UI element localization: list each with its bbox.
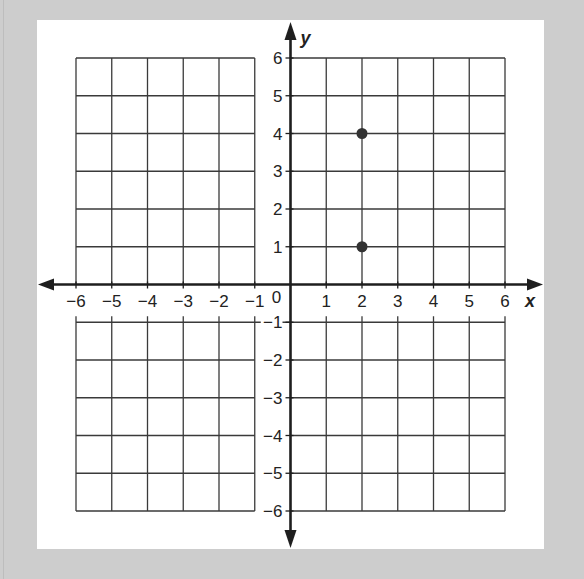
x-tick-label: −4 (138, 292, 157, 311)
axes (38, 22, 543, 548)
x-tick-label: −2 (209, 292, 228, 311)
y-tick-label: 1 (273, 238, 282, 257)
y-tick-label: −4 (263, 427, 282, 446)
x-tick-label: 6 (500, 292, 509, 311)
x-tick-label: −1 (245, 292, 264, 311)
y-tick-label: −6 (263, 502, 282, 521)
origin-label: 0 (272, 288, 281, 307)
x-axis-left-arrow-icon (38, 279, 54, 291)
y-tick-label: −3 (263, 389, 282, 408)
y-tick-label: 3 (273, 162, 282, 181)
data-point (357, 128, 368, 139)
y-tick-label: 4 (273, 125, 282, 144)
x-tick-label: 4 (429, 292, 438, 311)
x-tick-label: −5 (102, 292, 121, 311)
y-axis-down-arrow-icon (285, 530, 297, 548)
y-tick-label: −2 (263, 351, 282, 370)
x-axis-label: x (524, 291, 536, 311)
data-point (357, 241, 368, 252)
x-axis-right-arrow-icon (527, 279, 543, 291)
x-tick-label: 3 (393, 292, 402, 311)
y-tick-label: 5 (273, 87, 282, 106)
y-tick-label: −5 (263, 464, 282, 483)
y-axis-up-arrow-icon (285, 22, 297, 40)
y-tick-label: 6 (273, 49, 282, 68)
x-tick-label: 1 (322, 292, 331, 311)
x-tick-label: 2 (357, 292, 366, 311)
x-tick-label: −6 (66, 292, 85, 311)
x-tick-label: 5 (465, 292, 474, 311)
tick-labels: −6−5−4−3−2−1123456654321−1−2−3−4−5−60xy (66, 28, 536, 521)
y-tick-label: −1 (263, 313, 282, 332)
y-axis-label: y (299, 28, 311, 48)
y-tick-label: 2 (273, 200, 282, 219)
x-tick-label: −3 (174, 292, 193, 311)
coordinate-plane: −6−5−4−3−2−1123456654321−1−2−3−4−5−60xy (0, 0, 584, 579)
